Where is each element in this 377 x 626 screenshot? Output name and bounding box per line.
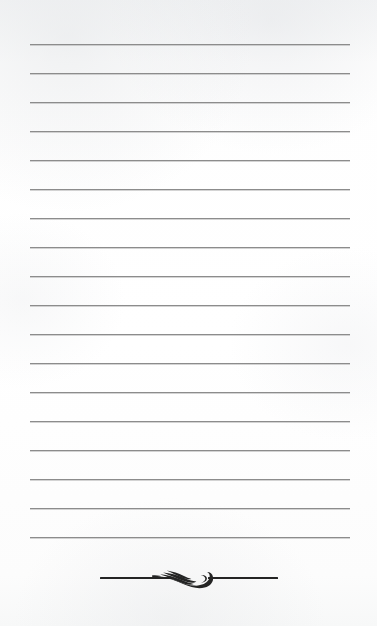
rule-line [30, 450, 350, 451]
rule-line [30, 392, 350, 393]
rule-line [30, 131, 350, 132]
rule-line [30, 305, 350, 306]
rule-line [30, 479, 350, 480]
leaf-flourish-divider [100, 565, 278, 591]
notepaper-page [0, 0, 377, 626]
rule-line [30, 247, 350, 248]
rule-line [30, 421, 350, 422]
rule-line [30, 160, 350, 161]
rule-line [30, 73, 350, 74]
rule-line [30, 102, 350, 103]
rule-line [30, 508, 350, 509]
rule-line [30, 44, 350, 45]
rule-line [30, 334, 350, 335]
rule-line [30, 363, 350, 364]
rule-line [30, 276, 350, 277]
leaf-flourish-icon [100, 565, 278, 591]
rule-line [30, 218, 350, 219]
rule-line [30, 537, 350, 538]
ruled-lines-group [0, 0, 377, 626]
rule-line [30, 189, 350, 190]
